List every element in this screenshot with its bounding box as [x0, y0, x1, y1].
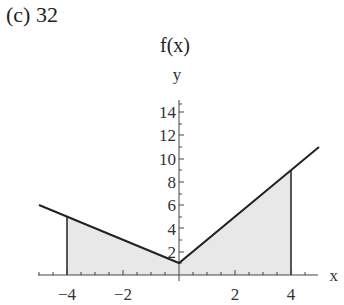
y-axis-label: y: [173, 65, 182, 84]
svg-text:4: 4: [287, 285, 296, 304]
svg-text:10: 10: [159, 150, 176, 169]
svg-text:6: 6: [168, 196, 177, 215]
y-tick-labels: 2 4 6 8 10 12 14: [159, 103, 177, 262]
svg-text:4: 4: [168, 220, 177, 239]
chart-plot: −4 −2 2 4 2 4 6 8 10 12 14 y x: [0, 0, 344, 305]
svg-text:−4: −4: [58, 285, 77, 304]
svg-text:2: 2: [231, 285, 240, 304]
x-tick-labels: −4 −2 2 4: [58, 285, 296, 304]
svg-text:12: 12: [159, 126, 176, 145]
svg-text:14: 14: [159, 103, 177, 122]
x-axis-label: x: [330, 266, 339, 285]
svg-text:2: 2: [168, 243, 177, 262]
svg-text:8: 8: [168, 173, 177, 192]
y-ticks: [179, 104, 184, 263]
svg-text:−2: −2: [114, 285, 132, 304]
